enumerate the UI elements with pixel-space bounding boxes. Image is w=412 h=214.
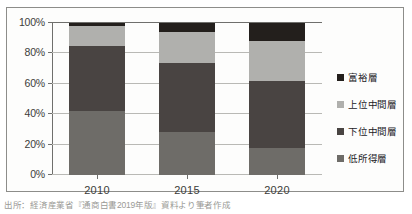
legend-swatch-icon bbox=[337, 101, 344, 108]
legend-label: 上位中間層 bbox=[348, 97, 397, 111]
bar-segment[interactable] bbox=[159, 32, 216, 62]
y-tick-label: 60% bbox=[25, 77, 45, 89]
stacked-bar[interactable] bbox=[249, 23, 306, 175]
y-tick-label: 40% bbox=[25, 107, 45, 119]
legend-item[interactable]: 上位中間層 bbox=[337, 97, 401, 111]
bar-segment[interactable] bbox=[249, 148, 306, 175]
chart-legend: 富裕層上位中間層下位中間層低所得層 bbox=[337, 70, 401, 178]
x-tick-mark bbox=[97, 175, 98, 179]
bar-segment[interactable] bbox=[69, 46, 126, 111]
bar-segment[interactable] bbox=[69, 111, 126, 175]
y-tick-label: 20% bbox=[25, 138, 45, 150]
x-tick-mark bbox=[187, 175, 188, 179]
legend-label: 富裕層 bbox=[348, 70, 377, 84]
x-tick-label: 2020 bbox=[249, 184, 306, 196]
y-tick-label: 100% bbox=[19, 16, 45, 28]
bar-group: 2020 bbox=[249, 23, 306, 175]
y-tick-mark bbox=[48, 83, 52, 84]
bar-segment[interactable] bbox=[69, 26, 126, 46]
x-tick-mark bbox=[277, 175, 278, 179]
y-axis-line bbox=[52, 23, 53, 175]
legend-swatch-icon bbox=[337, 155, 344, 162]
legend-label: 下位中間層 bbox=[348, 124, 397, 138]
stacked-bar[interactable] bbox=[159, 23, 216, 175]
plot-area: 100%80%60%40%20%0% 201020152020 bbox=[52, 23, 322, 175]
y-tick-label: 80% bbox=[25, 46, 45, 58]
x-tick-label: 2010 bbox=[69, 184, 126, 196]
y-tick-mark bbox=[48, 144, 52, 145]
bar-segment[interactable] bbox=[249, 81, 306, 148]
bar-segment[interactable] bbox=[159, 63, 216, 133]
stacked-bar[interactable] bbox=[69, 23, 126, 175]
x-tick-label: 2015 bbox=[159, 184, 216, 196]
legend-item[interactable]: 低所得層 bbox=[337, 151, 401, 165]
bar-segment[interactable] bbox=[249, 23, 306, 41]
y-tick-mark bbox=[48, 174, 52, 175]
legend-item[interactable]: 富裕層 bbox=[337, 70, 401, 84]
source-caption: 出所：経済産業省『通商白書2019年版』資料より筆者作成 bbox=[4, 198, 231, 210]
legend-swatch-icon bbox=[337, 74, 344, 81]
y-tick-mark bbox=[48, 113, 52, 114]
bar-group: 2010 bbox=[69, 23, 126, 175]
legend-item[interactable]: 下位中間層 bbox=[337, 124, 401, 138]
legend-swatch-icon bbox=[337, 128, 344, 135]
bar-segment[interactable] bbox=[159, 132, 216, 175]
bar-segment[interactable] bbox=[69, 23, 126, 26]
chart-figure: 100%80%60%40%20%0% 201020152020 富裕層上位中間層… bbox=[6, 7, 404, 192]
bar-segment[interactable] bbox=[159, 23, 216, 32]
bar-group: 2015 bbox=[159, 23, 216, 175]
y-tick-mark bbox=[48, 22, 52, 23]
y-tick-label: 0% bbox=[30, 168, 45, 180]
legend-label: 低所得層 bbox=[348, 151, 387, 165]
y-tick-mark bbox=[48, 52, 52, 53]
bar-segment[interactable] bbox=[249, 41, 306, 81]
